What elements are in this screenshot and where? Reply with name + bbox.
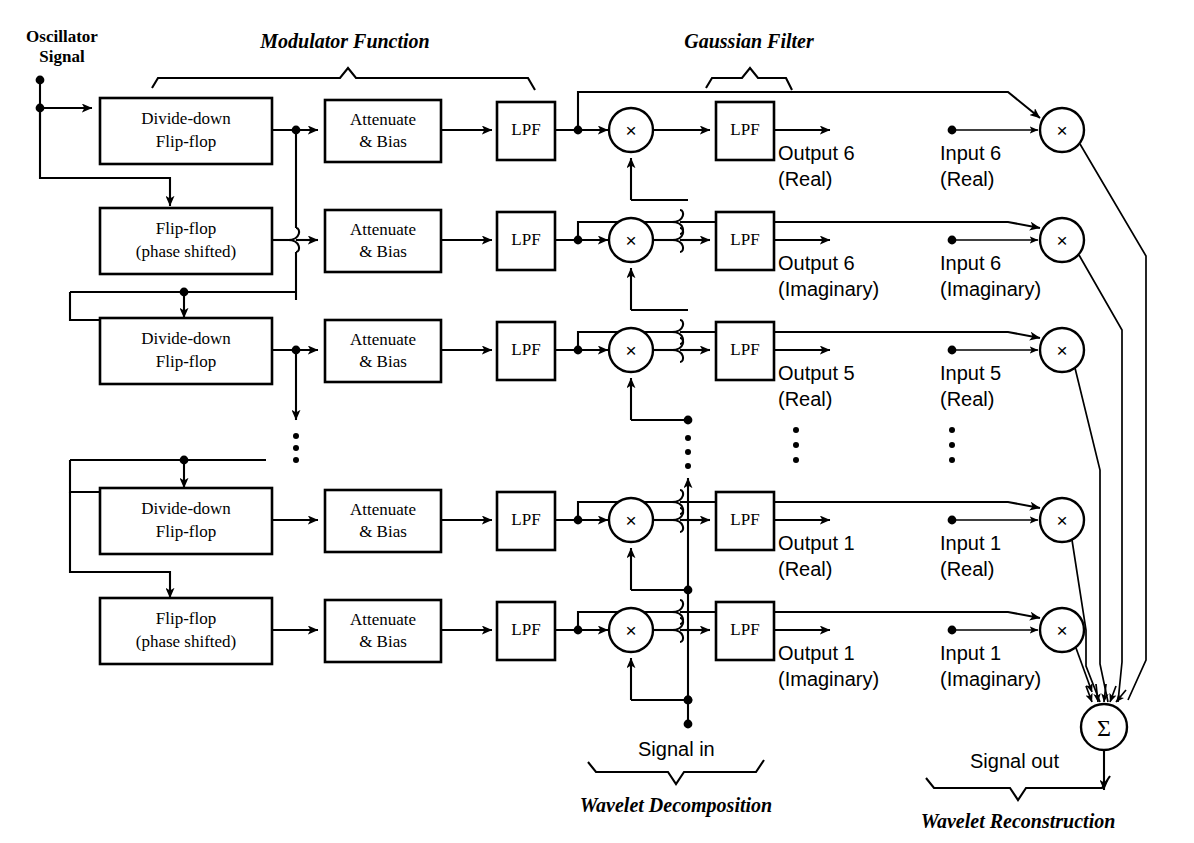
oscillator-label-line1: Oscillator [26, 27, 98, 46]
output-label-row0-line2: (Real) [778, 168, 832, 190]
sum-feed-row0 [1080, 144, 1146, 700]
vertical-ellipsis-signal-bus [685, 435, 691, 469]
input-label-row1-line2: (Imaginary) [940, 278, 1041, 300]
vertical-ellipsis-clock-bus [293, 433, 299, 463]
flipflop-label-row4-line1: Flip-flop [156, 609, 216, 628]
input-label-row4-line2: (Imaginary) [940, 668, 1041, 690]
output-label-row1-line2: (Imaginary) [778, 278, 879, 300]
attenuate-label-row0-line2: & Bias [359, 132, 407, 151]
block-diagram-figure: Modulator Function Gaussian Filter Wavel… [0, 0, 1194, 843]
attenuate-label-row0-line1: Attenuate [350, 110, 416, 129]
output-label-row1-line1: Output 6 [778, 252, 855, 274]
brace-gaussian-filter [706, 68, 792, 90]
output-label-row4-line2: (Imaginary) [778, 668, 879, 690]
section-label-gaussian: Gaussian Filter [684, 30, 814, 52]
attenuate-label-row1-line2: & Bias [359, 242, 407, 261]
flipflop-label-row3-line2: Flip-flop [156, 522, 216, 541]
brace-wavelet-reconstruction [926, 776, 1110, 800]
multiplier-glyph-row3: × [625, 510, 636, 531]
clock-rail-row2-left [70, 292, 162, 320]
multiplier-glyph-row2: × [625, 340, 636, 361]
output-label-row0-line1: Output 6 [778, 142, 855, 164]
clock-feed-row1 [40, 160, 170, 206]
output-label-row4-line1: Output 1 [778, 642, 855, 664]
attenuate-label-row4-line1: Attenuate [350, 610, 416, 629]
input-label-row4-line1: Input 1 [940, 642, 1001, 664]
oscillator-label-line2: Signal [39, 47, 85, 66]
section-label-decomposition: Wavelet Decomposition [580, 794, 772, 817]
multiplier-glyph-row4: × [625, 620, 636, 641]
signal-in-label: Signal in [638, 738, 715, 760]
input-label-row2-line1: Input 5 [940, 362, 1001, 384]
multiplier-recon-glyph-row2: × [1056, 340, 1067, 361]
output-label-row3-line2: (Real) [778, 558, 832, 580]
flipflop-label-row1-line2: (phase shifted) [136, 242, 237, 261]
attenuate-label-row3-line2: & Bias [359, 522, 407, 541]
multiplier-recon-glyph-row1: × [1056, 230, 1067, 251]
lpf-modulator-label-row4: LPF [511, 620, 540, 639]
flipflop-label-row0-line2: Flip-flop [156, 132, 216, 151]
attenuate-label-row3-line1: Attenuate [350, 500, 416, 519]
multiplier-recon-glyph-row4: × [1056, 620, 1067, 641]
lpf-modulator-label-row1: LPF [511, 230, 540, 249]
continuation-ellipsis-group [685, 427, 955, 469]
multiplier-glyph-row1: × [625, 230, 636, 251]
flipflop-label-row2-line1: Divide-down [141, 329, 231, 348]
output-label-row2-line1: Output 5 [778, 362, 855, 384]
flipflop-label-row3-line1: Divide-down [141, 499, 231, 518]
flipflop-label-row2-line2: Flip-flop [156, 352, 216, 371]
multiplier-glyph-row0: × [625, 120, 636, 141]
summation-node-group: Σ [1081, 684, 1127, 790]
lpf-gaussian-label-row4: LPF [730, 620, 759, 639]
lpf-modulator-label-row3: LPF [511, 510, 540, 529]
lpf-modulator-label-row2: LPF [511, 340, 540, 359]
oscillator-source-node [36, 76, 92, 160]
lpf-gaussian-label-row0: LPF [730, 120, 759, 139]
brace-modulator-function [152, 68, 535, 90]
signal-bus-dot-row2 [684, 416, 693, 425]
flipflop-label-row0-line1: Divide-down [141, 109, 231, 128]
attenuate-label-row4-line2: & Bias [359, 632, 407, 651]
signal-out-label: Signal out [970, 750, 1059, 772]
lpf-gaussian-label-row2: LPF [730, 340, 759, 359]
input-label-row0-line1: Input 6 [940, 142, 1001, 164]
input-label-row3-line2: (Real) [940, 558, 994, 580]
diagram-canvas: Modulator Function Gaussian Filter Wavel… [0, 0, 1194, 843]
section-label-modulator: Modulator Function [259, 30, 430, 52]
vertical-ellipsis-outputs [793, 427, 799, 463]
lpf-gaussian-label-row1: LPF [730, 230, 759, 249]
signal-in-terminal [684, 696, 693, 729]
lpf-gaussian-label-row3: LPF [730, 510, 759, 529]
flipflop-label-row1-line1: Flip-flop [156, 219, 216, 238]
attenuate-label-row2-line2: & Bias [359, 352, 407, 371]
brace-wavelet-decomposition [588, 760, 764, 784]
output-label-row2-line2: (Real) [778, 388, 832, 410]
vertical-ellipsis-inputs [949, 427, 955, 463]
input-label-row0-line2: (Real) [940, 168, 994, 190]
attenuate-label-row2-line1: Attenuate [350, 330, 416, 349]
sum-feed-row2 [1075, 368, 1108, 702]
summation-glyph: Σ [1097, 715, 1111, 741]
input-label-row3-line1: Input 1 [940, 532, 1001, 554]
multiplier-recon-glyph-row3: × [1056, 510, 1067, 531]
input-label-row2-line2: (Real) [940, 388, 994, 410]
attenuate-label-row1-line1: Attenuate [350, 220, 416, 239]
input-label-row1-line1: Input 6 [940, 252, 1001, 274]
multiplier-recon-glyph-row0: × [1056, 120, 1067, 141]
flipflop-label-row4-line2: (phase shifted) [136, 632, 237, 651]
sum-feed-row4 [1076, 648, 1092, 692]
lpf-modulator-label-row0: LPF [511, 120, 540, 139]
section-label-reconstruction: Wavelet Reconstruction [921, 810, 1116, 832]
output-label-row3-line1: Output 1 [778, 532, 855, 554]
